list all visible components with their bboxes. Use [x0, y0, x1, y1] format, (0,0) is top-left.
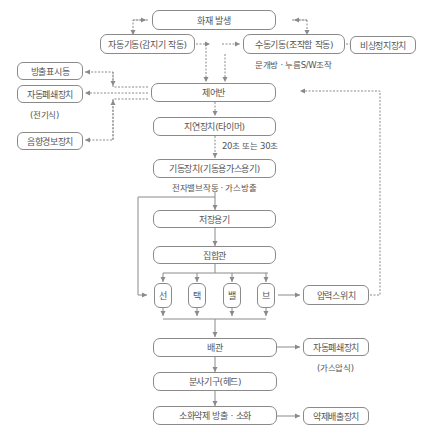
note-starter: 전자밸브작동 · 가스방출	[172, 181, 256, 193]
node-valve-3: 밸	[223, 283, 241, 308]
node-storage: 저장용기	[153, 210, 276, 228]
node-valve-1: 선	[154, 283, 172, 308]
node-discharge: 소화약제 방출 · 소화	[153, 406, 277, 425]
node-auto-start: 자동기동(감지기 작동)	[100, 34, 195, 54]
note-gas: (가스압식)	[317, 361, 354, 373]
node-piping: 배관	[153, 338, 277, 357]
note-manual: 문개방 · 누름S/W조작	[255, 58, 332, 70]
node-emergency-stop: 비상정지장치	[350, 36, 416, 54]
node-fire: 화재 발생	[152, 10, 276, 30]
node-agent-exhaust: 약제배출장치	[303, 407, 369, 425]
node-discharge-lamp: 방출표시등	[17, 62, 83, 80]
node-delay: 지연장치(타이머)	[153, 117, 276, 136]
node-manifold: 집합관	[153, 246, 276, 264]
node-nozzle: 분사기구(헤드)	[153, 372, 277, 391]
node-pressure-switch: 압력스위치	[303, 285, 369, 305]
note-elec: (전기식)	[30, 108, 59, 120]
node-valve-2: 택	[188, 283, 206, 308]
node-valve-4: 브	[257, 283, 275, 308]
node-auto-closer-gas: 자동폐쇄장치	[303, 338, 369, 356]
node-control-panel: 제어반	[151, 83, 276, 102]
node-manual-start: 수동기동(조작함 작동)	[243, 34, 345, 54]
note-delay: 20초 또는 30초	[222, 139, 278, 151]
node-starter: 기동장치(기동용가스용기)	[153, 159, 276, 178]
node-auto-closer-elec: 자동폐쇄장치	[17, 85, 83, 103]
node-alarm: 음향경보장치	[17, 132, 83, 150]
